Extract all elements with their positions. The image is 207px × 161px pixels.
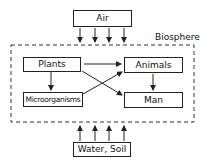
node-microorganisms: Microorganisms	[23, 92, 83, 107]
node-water-soil: Water, Soil	[73, 142, 131, 157]
air-inflow-arrows	[80, 28, 124, 42]
node-air: Air	[73, 10, 132, 27]
node-plants: Plants	[23, 57, 81, 72]
water-soil-inflow-arrows	[80, 126, 124, 141]
biosphere-label: Biosphere	[155, 33, 200, 42]
node-man: Man	[124, 92, 183, 108]
node-animals: Animals	[124, 57, 183, 73]
